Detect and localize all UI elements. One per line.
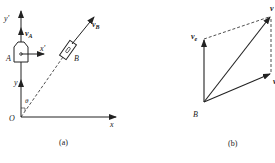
panel-b: ve v v B (b) [191, 4, 275, 148]
dashed-line-ob [21, 57, 63, 117]
origin-label: O [9, 114, 15, 123]
point-b-label: B [193, 110, 198, 119]
body-b-label: B [74, 54, 79, 63]
moving-y-label: y' [3, 14, 10, 23]
body-a-label: A [5, 54, 11, 63]
dashed-line-top [204, 17, 269, 39]
velocity-a-label: vA [25, 29, 33, 39]
moving-x-label: x' [39, 44, 46, 53]
velocity-b-arrow [72, 17, 94, 44]
caption-a: (a) [59, 138, 68, 147]
y-axis-label: y [13, 78, 18, 87]
velocity-abs-arrow [204, 17, 270, 102]
velocity-r-label: v [273, 77, 275, 86]
velocity-r-arrow [204, 74, 270, 102]
caption-b: (b) [228, 139, 238, 148]
x-axis-label: x [109, 120, 114, 129]
kinematics-diagram: y' vA A x' B vB y θ O x (a) ve v v B (b) [0, 0, 275, 163]
velocity-b-label: vB [92, 20, 100, 30]
angle-label: θ [25, 97, 29, 105]
velocity-e-label: ve [191, 32, 198, 42]
body-a-block [14, 42, 28, 62]
velocity-abs-label: v [270, 4, 274, 13]
panel-a: y' vA A x' B vB y θ O x (a) [3, 11, 116, 147]
angle-marker-icon [21, 108, 25, 111]
